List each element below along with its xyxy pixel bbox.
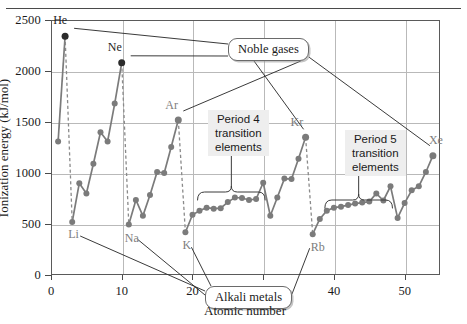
block-line: elements: [352, 160, 399, 174]
block-line: Period 4: [215, 112, 262, 126]
y-tick-mark: [45, 71, 51, 72]
x-gridline: [123, 21, 124, 274]
x-tick-mark: [263, 275, 264, 280]
element-label-xe: Xe: [429, 133, 443, 148]
element-label-k: K: [182, 238, 191, 253]
y-gridline: [52, 72, 439, 73]
x-tick-label: 10: [115, 284, 128, 299]
x-tick-label: 40: [328, 284, 341, 299]
element-label-na: Na: [125, 231, 139, 246]
block-label-period-5: Period 5transitionelements: [345, 130, 406, 176]
block-line: transition: [352, 146, 399, 160]
x-tick-label: 20: [186, 284, 199, 299]
top-divider-rule: [6, 8, 461, 9]
block-line: Period 5: [352, 132, 399, 146]
x-gridline: [335, 21, 336, 274]
element-label-rb: Rb: [311, 240, 325, 255]
y-gridline: [52, 225, 439, 226]
y-tick-mark: [45, 20, 51, 21]
y-tick-label: 2000: [0, 64, 41, 79]
x-axis-title: Atomic number: [204, 303, 286, 319]
x-tick-mark: [51, 275, 52, 280]
element-label-ar: Ar: [165, 98, 178, 113]
x-tick-label: 0: [48, 284, 54, 299]
element-label-ne: Ne: [108, 40, 122, 55]
block-line: elements: [215, 140, 262, 154]
element-label-li: Li: [68, 227, 79, 242]
y-tick-mark: [45, 173, 51, 174]
block-line: transition: [215, 126, 262, 140]
x-tick-label: 50: [398, 284, 411, 299]
x-gridline: [193, 21, 194, 274]
figure-root: 0500100015002000250001020304050 HeNeArKr…: [0, 0, 467, 324]
element-label-kr: Kr: [291, 115, 304, 130]
y-tick-mark: [45, 122, 51, 123]
x-tick-mark: [122, 275, 123, 280]
x-tick-mark: [192, 275, 193, 280]
y-tick-label: 0: [0, 268, 41, 283]
y-tick-mark: [45, 224, 51, 225]
y-axis-title: Ionization energy (kJ/mol): [0, 79, 12, 217]
y-tick-label: 2500: [0, 13, 41, 28]
block-label-period-4: Period 4transitionelements: [208, 110, 269, 156]
x-tick-mark: [334, 275, 335, 280]
x-tick-mark: [405, 275, 406, 280]
x-gridline: [406, 21, 407, 274]
element-label-he: He: [53, 13, 67, 28]
callout-noble-gases: Noble gases: [228, 38, 309, 61]
y-tick-label: 500: [0, 217, 41, 232]
